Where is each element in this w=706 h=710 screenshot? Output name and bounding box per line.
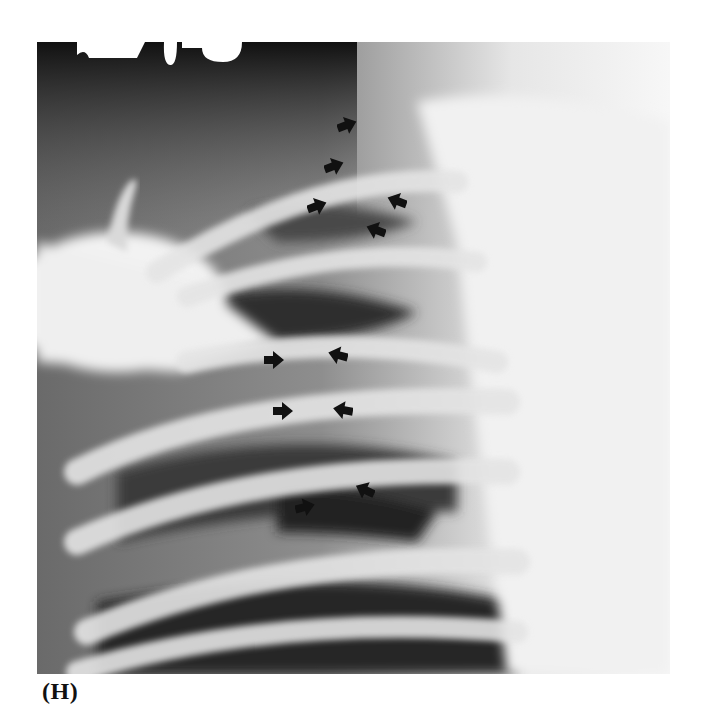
arrow-left-icon [328,346,348,364]
arrow-right-icon [273,402,293,420]
arrow-left-icon [366,221,386,239]
arrow-left-icon [355,481,375,499]
arrow-right-icon [324,157,344,175]
xray-image [37,42,670,674]
arrow-right-icon [307,197,327,215]
arrow-right-icon [337,116,357,134]
xray-rendering [37,42,670,674]
arrow-right-icon [295,498,315,516]
arrow-left-icon [333,401,353,419]
panel-label: (H) [42,678,78,705]
arrow-right-icon [264,351,284,369]
arrow-left-icon [387,192,407,210]
